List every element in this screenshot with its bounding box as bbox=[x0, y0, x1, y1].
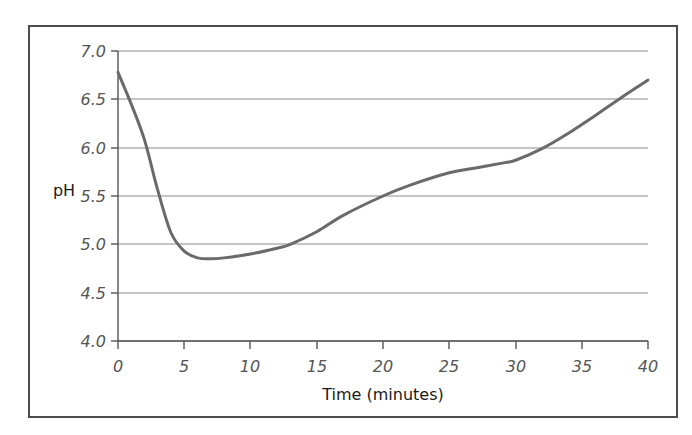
y-tick-label-7-0: 7.0 bbox=[81, 42, 106, 61]
x-tick-label-0: 0 bbox=[113, 357, 123, 376]
x-tick-label-25: 25 bbox=[439, 357, 459, 376]
x-axis-title: Time (minutes) bbox=[321, 385, 444, 404]
x-tick-label-30: 30 bbox=[506, 357, 526, 376]
x-tick-label-40: 40 bbox=[638, 357, 658, 376]
ph-curve bbox=[118, 72, 648, 259]
x-tick-label-10: 10 bbox=[240, 357, 260, 376]
y-tick-label-4-0: 4.0 bbox=[81, 332, 106, 351]
x-tick-label-15: 15 bbox=[307, 357, 327, 376]
y-axis: 7.0 6.5 6.0 5.5 5.0 4.5 4.0 bbox=[81, 42, 118, 351]
y-axis-title: pH bbox=[53, 181, 75, 200]
y-tick-label-5-5: 5.5 bbox=[81, 187, 106, 206]
x-tick-label-5: 5 bbox=[179, 357, 189, 376]
x-tick-label-35: 35 bbox=[572, 357, 592, 376]
ph-vs-time-line-chart: 7.0 6.5 6.0 5.5 5.0 4.5 4.0 0 5 10 15 20… bbox=[0, 0, 692, 435]
y-tick-label-4-5: 4.5 bbox=[81, 284, 106, 303]
chart-figure: 7.0 6.5 6.0 5.5 5.0 4.5 4.0 0 5 10 15 20… bbox=[0, 0, 692, 435]
y-tick-label-6-0: 6.0 bbox=[81, 139, 106, 158]
y-tick-label-6-5: 6.5 bbox=[81, 90, 106, 109]
x-tick-label-20: 20 bbox=[373, 357, 393, 376]
x-axis: 0 5 10 15 20 25 30 35 40 bbox=[113, 341, 658, 376]
y-tick-label-5-0: 5.0 bbox=[81, 235, 106, 254]
